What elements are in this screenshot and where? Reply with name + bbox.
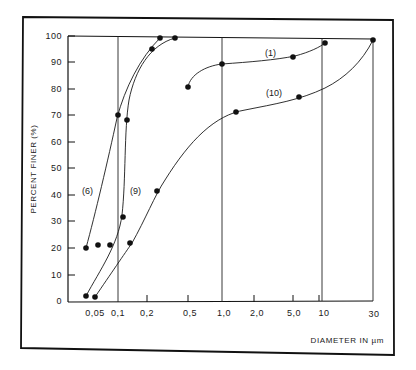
- point-10-e: [296, 94, 302, 100]
- svg-text:0,1: 0,1: [111, 308, 125, 318]
- point-extra-b: [107, 242, 113, 248]
- curve-label-9: (9): [130, 186, 141, 196]
- svg-text:2,0: 2,0: [250, 308, 264, 318]
- point-10-c: [154, 188, 160, 194]
- curve-9: [86, 38, 175, 296]
- point-6-b: [115, 112, 121, 118]
- point-extra-a: [95, 242, 101, 248]
- vertical-reference-lines: [118, 36, 373, 302]
- point-6-a: [83, 245, 89, 251]
- svg-text:20: 20: [51, 243, 62, 253]
- svg-text:5,0: 5,0: [287, 308, 301, 318]
- svg-text:70: 70: [51, 110, 62, 120]
- svg-text:0,05: 0,05: [85, 308, 105, 318]
- point-6-c: [149, 46, 155, 52]
- svg-text:60: 60: [51, 137, 62, 147]
- svg-text:80: 80: [51, 84, 62, 94]
- point-10-f: [370, 37, 376, 43]
- point-9-a: [83, 293, 89, 299]
- curve-label-10: (10): [266, 88, 282, 98]
- x-axis-title: DIAMETER IN µm: [311, 336, 384, 345]
- svg-text:0: 0: [56, 296, 62, 306]
- point-9-c: [124, 117, 130, 123]
- top-border-line: [68, 36, 373, 39]
- svg-text:40: 40: [51, 190, 62, 200]
- y-axis-title: PERCENT FINER (%): [29, 124, 38, 213]
- x-tick-labels: 0,05 0,1 0,2 0,5 1,0 2,0 5,0 10 30: [85, 308, 379, 319]
- point-10-a: [92, 294, 98, 300]
- curve-1: [188, 43, 325, 87]
- curve-label-1: (1): [265, 48, 276, 58]
- point-1-a: [185, 84, 191, 90]
- svg-text:100: 100: [45, 31, 62, 41]
- y-tick-labels: 100 90 80 70 60 50 40 30 20 10 0: [45, 31, 62, 306]
- curve-label-6: (6): [82, 186, 93, 196]
- curves: [86, 38, 373, 297]
- point-10-d: [233, 109, 239, 115]
- point-10-b: [127, 240, 133, 246]
- svg-text:0,5: 0,5: [183, 308, 197, 318]
- point-1-b: [219, 61, 225, 67]
- svg-text:10: 10: [318, 308, 329, 318]
- y-ticks: [68, 36, 75, 275]
- x-axis: [68, 301, 373, 302]
- svg-text:1,0: 1,0: [217, 308, 231, 318]
- svg-text:0,2: 0,2: [140, 308, 154, 318]
- svg-text:30: 30: [51, 216, 62, 226]
- svg-text:30: 30: [368, 309, 379, 319]
- particle-size-distribution-chart: 100 90 80 70 60 50 40 30 20 10 0 0,05 0,…: [0, 0, 416, 370]
- point-1-d: [322, 40, 328, 46]
- curve-10: [95, 40, 373, 297]
- point-1-c: [290, 54, 296, 60]
- point-9-b: [120, 214, 126, 220]
- point-6-d: [157, 35, 163, 41]
- data-points: [83, 35, 376, 300]
- point-9-d: [172, 35, 178, 41]
- svg-text:50: 50: [51, 163, 62, 173]
- svg-text:10: 10: [51, 270, 62, 280]
- svg-text:90: 90: [51, 57, 62, 67]
